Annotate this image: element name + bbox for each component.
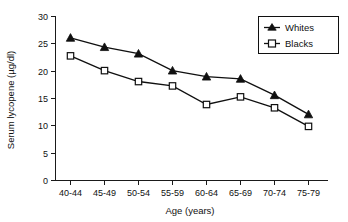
x-tick-label: 60-64 [195,188,218,198]
open-square-icon [269,40,276,47]
legend-label-whites: Whites [285,22,314,33]
y-tick-label: 15 [38,94,48,104]
x-tick-label: 45-49 [93,188,116,198]
y-tick-label: 25 [38,39,48,49]
chart-canvas: Serum lycopene (µg/dl) 30 25 20 15 10 5 … [0,0,348,222]
legend-label-blacks: Blacks [285,38,313,49]
x-axis-ticks [71,181,309,186]
y-axis-tick-labels: 30 25 20 15 10 5 0 [38,12,48,186]
data-point-open-square [271,105,277,111]
data-point-filled-triangle [168,66,176,74]
data-point-open-square [305,123,311,129]
chart-legend: Whites Blacks [259,17,339,54]
lycopene-age-line-chart: Serum lycopene (µg/dl) 30 25 20 15 10 5 … [0,0,348,222]
data-point-open-square [203,101,209,107]
y-tick-label: 20 [38,67,48,77]
data-point-open-square [67,53,73,59]
x-tick-label: 50-54 [127,188,150,198]
x-tick-label: 75-79 [297,188,320,198]
data-point-filled-triangle [270,91,278,99]
series-line-blacks [71,56,309,127]
x-axis-title: Age (years) [165,205,214,216]
data-point-open-square [169,83,175,89]
data-point-open-square [237,94,243,100]
x-tick-label: 65-69 [229,188,252,198]
y-tick-label: 30 [38,12,48,22]
x-axis-tick-labels: 40-44 45-49 50-54 55-59 60-64 65-69 70-7… [59,188,320,198]
y-tick-label: 5 [43,149,48,159]
y-axis-title: Serum lycopene (µg/dl) [5,51,16,149]
x-tick-label: 70-74 [263,188,286,198]
x-tick-label: 40-44 [59,188,82,198]
data-point-open-square [135,78,141,84]
y-axis-ticks [51,17,56,181]
y-tick-label: 0 [43,176,48,186]
x-tick-label: 55-59 [161,188,184,198]
data-point-filled-triangle [66,34,74,42]
data-point-open-square [101,67,107,73]
y-tick-label: 10 [38,121,48,131]
data-point-filled-triangle [304,110,312,118]
